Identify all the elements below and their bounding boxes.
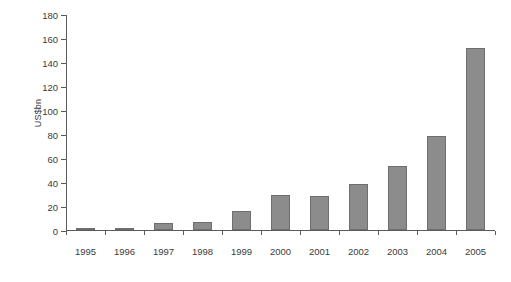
- x-axis-label: 2000: [270, 246, 291, 257]
- x-axis-label: 1997: [153, 246, 174, 257]
- x-axis-label: 2003: [387, 246, 408, 257]
- y-tick-label: 0: [53, 226, 58, 237]
- y-tick-label: 80: [47, 130, 58, 141]
- y-tick-mark: [61, 183, 66, 184]
- bar: [154, 223, 174, 230]
- y-tick-label: 120: [42, 82, 58, 93]
- y-tick-label: 40: [47, 178, 58, 189]
- y-axis-line: [66, 15, 67, 231]
- y-tick-mark: [61, 39, 66, 40]
- y-tick-label: 20: [47, 202, 58, 213]
- x-axis-label: 2002: [348, 246, 369, 257]
- bar: [271, 195, 291, 230]
- bar: [310, 196, 330, 230]
- x-tick-mark: [66, 231, 67, 235]
- x-axis-label: 1996: [114, 246, 135, 257]
- bar: [115, 228, 135, 230]
- bar: [76, 228, 96, 230]
- y-tick-label: 180: [42, 10, 58, 21]
- bar: [427, 136, 447, 230]
- y-tick-mark: [61, 15, 66, 16]
- y-tick-label: 160: [42, 34, 58, 45]
- y-tick-label: 100: [42, 106, 58, 117]
- y-tick-mark: [61, 159, 66, 160]
- y-tick-mark: [61, 111, 66, 112]
- x-tick-mark: [417, 231, 418, 235]
- x-axis-label: 2001: [309, 246, 330, 257]
- x-tick-mark: [222, 231, 223, 235]
- x-tick-mark: [378, 231, 379, 235]
- bar: [232, 211, 252, 230]
- x-axis-label: 1995: [75, 246, 96, 257]
- x-axis-line: [66, 230, 495, 231]
- x-tick-mark: [105, 231, 106, 235]
- x-tick-mark: [183, 231, 184, 235]
- y-tick-mark: [61, 207, 66, 208]
- x-tick-mark: [495, 231, 496, 235]
- x-tick-mark: [300, 231, 301, 235]
- x-tick-mark: [144, 231, 145, 235]
- x-tick-mark: [456, 231, 457, 235]
- x-axis-label: 1998: [192, 246, 213, 257]
- y-tick-mark: [61, 135, 66, 136]
- y-tick-label: 60: [47, 154, 58, 165]
- x-tick-mark: [339, 231, 340, 235]
- x-axis-label: 1999: [231, 246, 252, 257]
- bar-chart: US$bn 020406080100120140160180 199519961…: [0, 0, 511, 282]
- x-axis-label: 2004: [426, 246, 447, 257]
- x-axis-label: 2005: [465, 246, 486, 257]
- x-tick-mark: [261, 231, 262, 235]
- bar: [466, 48, 486, 230]
- bar: [193, 222, 213, 230]
- y-tick-mark: [61, 63, 66, 64]
- y-tick-mark: [61, 87, 66, 88]
- plot-area: 020406080100120140160180: [66, 15, 495, 231]
- bar: [388, 166, 408, 230]
- bar: [349, 184, 369, 230]
- y-tick-label: 140: [42, 58, 58, 69]
